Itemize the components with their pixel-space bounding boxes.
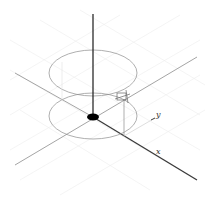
diagram-canvas	[0, 0, 212, 202]
y-axis-label: y	[156, 110, 161, 119]
y-guide-line	[124, 118, 155, 136]
x-axis-label: x	[156, 147, 161, 156]
corner-mark: ˇ	[1, 0, 4, 4]
y-axis-line	[15, 57, 197, 165]
origin-dot	[87, 114, 99, 121]
y-axis-tick	[151, 118, 155, 120]
x-axis-front-line	[93, 117, 197, 180]
